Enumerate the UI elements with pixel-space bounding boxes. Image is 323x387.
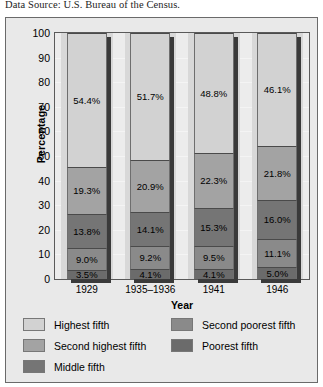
bar-segment-label: 4.1% xyxy=(139,270,161,280)
legend-label: Poorest fifth xyxy=(202,340,258,352)
bar-segment[interactable]: 9.2% xyxy=(130,246,170,269)
bar-segment[interactable]: 9.5% xyxy=(194,246,234,269)
bar-segment-label: 16.0% xyxy=(264,215,291,225)
bar-1935-1936[interactable]: 4.1%9.2%14.1%20.9%51.7% xyxy=(130,33,170,279)
legend-swatch xyxy=(23,318,45,331)
legend-item[interactable]: Second poorest fifth xyxy=(171,314,311,335)
legend-label: Highest fifth xyxy=(54,319,109,331)
bar-segment[interactable]: 20.9% xyxy=(130,160,170,211)
legend-item[interactable]: Highest fifth xyxy=(23,314,173,335)
legend-label: Middle fifth xyxy=(54,361,105,373)
y-axis-tick-label: 90 xyxy=(24,52,50,64)
bar-segment-label: 11.1% xyxy=(264,249,290,259)
bar-segment[interactable]: 11.1% xyxy=(257,239,297,266)
bar-segment-label: 51.7% xyxy=(137,92,164,102)
bar-segment[interactable]: 51.7% xyxy=(130,33,170,160)
bar-segment[interactable]: 46.1% xyxy=(257,33,297,146)
legend-column-right: Second poorest fifthPoorest fifth xyxy=(171,314,311,356)
bar-segment-label: 14.1% xyxy=(137,225,164,235)
bar-segment-label: 9.2% xyxy=(139,253,161,263)
bar-segment-label: 4.1% xyxy=(203,270,225,280)
y-axis-tick-label: 20 xyxy=(24,224,50,236)
legend-swatch xyxy=(171,318,193,331)
chart-figure: Percentage 1009080706050403020100 3.5%9.… xyxy=(5,17,318,383)
bar-segment[interactable]: 13.8% xyxy=(67,214,107,248)
x-axis-title: Year xyxy=(54,299,310,311)
bar-segment[interactable]: 3.5% xyxy=(67,270,107,279)
plot-area: 3.5%9.0%13.8%19.3%54.4%4.1%9.2%14.1%20.9… xyxy=(54,32,310,280)
bar-segment-label: 3.5% xyxy=(76,270,98,280)
y-axis-tick-label: 10 xyxy=(24,248,50,260)
y-axis-tick-label: 60 xyxy=(24,125,50,137)
legend-item[interactable]: Middle fifth xyxy=(23,356,173,377)
legend-item[interactable]: Poorest fifth xyxy=(171,335,311,356)
y-axis-tick-label: 0 xyxy=(24,273,50,285)
bar-segment[interactable]: 5.0% xyxy=(257,267,297,279)
source-caption: Data Source: U.S. Bureau of the Census. xyxy=(5,0,180,10)
legend-swatch xyxy=(171,339,193,352)
bar-1946[interactable]: 5.0%11.1%16.0%21.8%46.1% xyxy=(257,33,297,279)
bar-segment[interactable]: 54.4% xyxy=(67,33,107,167)
x-axis-tick-label: 1946 xyxy=(266,284,288,295)
bar-segment-label: 21.8% xyxy=(264,169,291,179)
bar-segment-label: 54.4% xyxy=(73,96,100,106)
x-axis-tick-label: 1935–1936 xyxy=(125,284,175,295)
legend-label: Second poorest fifth xyxy=(202,319,295,331)
y-axis-tick-label: 40 xyxy=(24,175,50,187)
bar-segment[interactable]: 21.8% xyxy=(257,146,297,200)
bar-segment-label: 22.3% xyxy=(200,176,227,186)
bar-segment-label: 48.8% xyxy=(200,89,227,99)
x-axis-tick-label: 1929 xyxy=(76,284,98,295)
bar-1941[interactable]: 4.1%9.5%15.3%22.3%48.8% xyxy=(194,33,234,279)
bar-segment[interactable]: 22.3% xyxy=(194,153,234,208)
bar-1929[interactable]: 3.5%9.0%13.8%19.3%54.4% xyxy=(67,33,107,279)
bar-segment[interactable]: 4.1% xyxy=(130,269,170,279)
bar-segment-label: 9.0% xyxy=(76,255,98,265)
legend-item[interactable]: Second highest fifth xyxy=(23,335,173,356)
legend-column-left: Highest fifthSecond highest fifthMiddle … xyxy=(23,314,173,377)
y-axis-tick-label: 100 xyxy=(24,27,50,39)
legend-label: Second highest fifth xyxy=(54,340,146,352)
y-axis-tick-label: 50 xyxy=(24,150,50,162)
bar-segment[interactable]: 48.8% xyxy=(194,33,234,153)
y-axis-tick-label: 70 xyxy=(24,101,50,113)
bar-segment[interactable]: 14.1% xyxy=(130,212,170,247)
legend-swatch xyxy=(23,360,45,373)
bar-segment[interactable]: 19.3% xyxy=(67,167,107,214)
bar-segment-label: 13.8% xyxy=(73,227,100,237)
y-axis-tick-label: 80 xyxy=(24,76,50,88)
bar-segment[interactable]: 9.0% xyxy=(67,248,107,270)
bar-segment[interactable]: 4.1% xyxy=(194,269,234,279)
legend-swatch xyxy=(23,339,45,352)
bar-segment-label: 15.3% xyxy=(200,223,227,233)
bar-segment[interactable]: 15.3% xyxy=(194,208,234,246)
bar-segment-label: 9.5% xyxy=(203,253,225,263)
bar-segment[interactable]: 16.0% xyxy=(257,200,297,239)
y-axis-tick-label: 30 xyxy=(24,199,50,211)
bar-segment-label: 19.3% xyxy=(73,186,100,196)
bar-segment-label: 5.0% xyxy=(266,269,288,279)
bar-segment-label: 46.1% xyxy=(264,85,291,95)
x-axis-tick-label: 1941 xyxy=(203,284,225,295)
bar-segment-label: 20.9% xyxy=(137,182,164,192)
